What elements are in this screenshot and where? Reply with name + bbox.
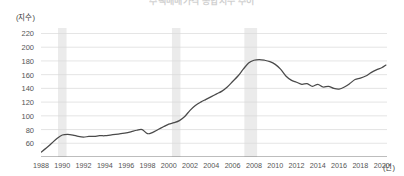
y-tick-80: 80 — [8, 125, 34, 134]
page-title: 주택매매가격 종합지수 추이 — [0, 0, 404, 7]
y-tick-100: 100 — [8, 111, 34, 120]
y-tick-120: 120 — [8, 98, 34, 107]
y-tick-200: 200 — [8, 43, 34, 52]
x-tick-2020: 2020 — [369, 161, 395, 170]
y-tick-60: 60 — [8, 139, 34, 148]
y-tick-220: 220 — [8, 29, 34, 38]
plot-area — [41, 28, 387, 157]
data-line-housing-price-index — [41, 60, 386, 153]
y-tick-160: 160 — [8, 70, 34, 79]
y-tick-180: 180 — [8, 56, 34, 65]
chart-root: 주택매매가격 종합지수 추이 (지수) (년) 6080100120140160… — [0, 0, 404, 176]
y-tick-140: 140 — [8, 84, 34, 93]
line-chart-svg — [41, 28, 387, 157]
y-axis-unit-label: (지수) — [16, 11, 35, 22]
